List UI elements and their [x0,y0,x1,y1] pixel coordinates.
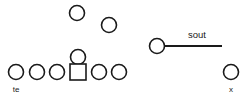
play-diagram-canvas: sout te x [0,0,249,100]
player-back-1[interactable] [70,6,85,21]
player-lineman-2[interactable] [30,65,45,80]
player-quarterback[interactable] [71,50,86,65]
player-lineman-1[interactable] [9,65,24,80]
position-label-x: x [229,85,233,94]
player-lineman-5[interactable] [112,65,127,80]
player-back-2[interactable] [102,18,117,33]
route-label-sout: sout [188,29,206,40]
player-receiver-x[interactable] [224,65,239,80]
player-receiver-south[interactable] [150,39,165,54]
player-lineman-3[interactable] [50,65,65,80]
player-center[interactable] [70,64,86,80]
play-diagram-svg: sout te x [0,0,249,100]
player-lineman-4[interactable] [92,65,107,80]
position-label-te: te [13,85,20,94]
